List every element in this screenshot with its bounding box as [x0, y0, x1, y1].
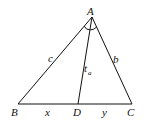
bisector-subscript: a	[88, 69, 92, 77]
angle-arc-right	[90, 27, 96, 30]
diagram-svg: A B D C c b t a x y	[0, 0, 144, 124]
bisector-ad	[78, 17, 92, 104]
side-label-c: c	[48, 52, 53, 64]
side-b	[92, 17, 132, 104]
angle-arc-left	[84, 26, 90, 30]
vertex-label-c: C	[127, 106, 135, 118]
side-label-b: b	[113, 53, 119, 65]
vertex-label-b: B	[11, 106, 18, 118]
triangle-diagram: A B D C c b t a x y	[0, 0, 144, 124]
vertex-label-d: D	[72, 106, 81, 118]
segment-label-x: x	[44, 106, 50, 118]
segment-label-y: y	[101, 106, 107, 118]
vertex-label-a: A	[86, 5, 94, 17]
side-c	[18, 17, 92, 104]
